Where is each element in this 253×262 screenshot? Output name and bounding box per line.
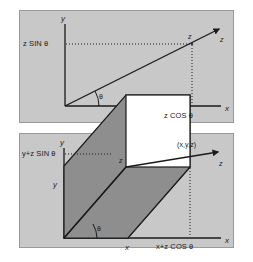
top-y-tick-label: z SIN θ bbox=[23, 40, 48, 48]
top-point-label: z bbox=[188, 33, 192, 40]
bottom-x-tick-inner-label: x bbox=[125, 244, 129, 252]
bottom-y-tick-upper-label: y+z SIN θ bbox=[22, 150, 56, 158]
bottom-corner-label: z bbox=[119, 157, 123, 164]
bottom-x-axis-label: x bbox=[225, 237, 229, 245]
bottom-vector-label: z bbox=[219, 160, 223, 167]
top-diagram-panel bbox=[19, 10, 234, 123]
top-y-axis-label: y bbox=[61, 15, 65, 23]
top-x-axis-label: x bbox=[225, 105, 229, 113]
top-x-tick-label: z COS θ bbox=[164, 112, 193, 120]
top-angle-label: θ bbox=[99, 93, 103, 100]
top-vector-label: z bbox=[220, 36, 224, 43]
bottom-point-label: (x,y,z) bbox=[177, 141, 196, 148]
bottom-angle-label: θ bbox=[97, 225, 101, 232]
bottom-y-axis-label: y bbox=[60, 139, 64, 147]
bottom-y-tick-lower-label: y bbox=[53, 181, 57, 189]
bottom-x-tick-outer-label: x+z COS θ bbox=[156, 243, 193, 251]
figure-root: y x z SIN θ z COS θ θ z z y x y+z SIN θ … bbox=[0, 0, 253, 262]
